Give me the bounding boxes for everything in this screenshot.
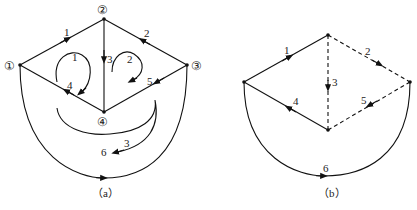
edge-b-2-label: 2 <box>365 45 371 57</box>
node-a-4-label: ④ <box>97 115 108 129</box>
edge-b-6-label: 6 <box>323 162 329 174</box>
loop-a-3-label: 3 <box>124 137 130 149</box>
node-a-4-dot <box>102 110 106 114</box>
node-a-2-dot <box>102 17 106 21</box>
edge-b-5 <box>328 82 410 130</box>
edge-a-1-arrow-icon <box>60 39 68 43</box>
edge-a-2-label: 2 <box>144 27 150 39</box>
edge-b-4-arrow-icon <box>288 107 296 112</box>
node-b-right-dot <box>408 80 412 84</box>
node-b-top-dot <box>326 33 330 37</box>
node-a-1-label: ① <box>4 59 15 73</box>
node-a-3-dot <box>185 63 189 67</box>
node-a-1-dot <box>18 63 22 67</box>
edge-b-2-arrow-icon <box>372 60 380 65</box>
edge-a-3-label: 3 <box>107 53 113 65</box>
edge-b-2 <box>328 35 410 82</box>
edge-b-1-arrow-icon <box>282 57 290 62</box>
edge-a-4-arrow-icon <box>66 91 74 95</box>
edge-b-4-label: 4 <box>293 95 299 107</box>
loop-a-2-arrow-icon <box>131 78 137 81</box>
caption-a: （a） <box>92 187 119 199</box>
edge-a-2-arrow-icon <box>142 40 150 45</box>
loop-a-1-label: 1 <box>72 51 78 63</box>
loop-a-2-label: 2 <box>127 53 133 65</box>
figure-b <box>244 35 410 176</box>
edge-b-4 <box>244 82 328 130</box>
edge-a-1-label: 1 <box>64 26 70 38</box>
node-a-2-label: ② <box>97 3 108 17</box>
edge-b-5-label: 5 <box>361 94 367 106</box>
edge-a-6-label: 6 <box>101 146 107 158</box>
nodes-b <box>242 33 412 132</box>
edge-a-5 <box>104 65 187 112</box>
edge-b-1-label: 1 <box>284 44 290 56</box>
edge-a-5-arrow-icon <box>156 78 164 83</box>
node-b-left-dot <box>242 80 246 84</box>
edge-a-5-label: 5 <box>147 75 153 87</box>
loop-a-1-arrow-icon <box>80 88 86 93</box>
edge-b-5-arrow-icon <box>369 101 377 106</box>
diagram-canvas: ① ② ③ ④ 1 2 3 4 5 6 1 2 3 （a） 1 2 <box>0 0 417 210</box>
node-a-3-label: ③ <box>191 59 202 73</box>
edge-b-3-label: 3 <box>332 76 338 88</box>
edge-a-4 <box>20 65 104 112</box>
caption-b: （b） <box>318 187 346 199</box>
edge-a-4-label: 4 <box>67 79 73 91</box>
node-b-bottom-dot <box>326 128 330 132</box>
